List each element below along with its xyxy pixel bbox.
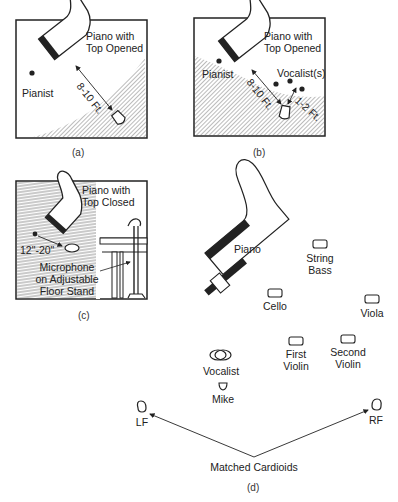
mike-label: Mike (203, 393, 243, 405)
first-violin-label: First (276, 348, 316, 360)
first-violin-chair (289, 337, 303, 345)
distance-label: 12"-20" (20, 244, 54, 256)
caption-d: (d) (247, 482, 259, 493)
microphone-label: on Adjustable (28, 273, 106, 285)
vocalist-dot (299, 86, 304, 91)
caption-c: (c) (78, 310, 90, 321)
piano-icon (174, 156, 295, 275)
string-bass-label: String (300, 252, 340, 264)
diagram-canvas (0, 0, 398, 502)
second-violin-chair (341, 335, 355, 343)
caption-b: (b) (253, 147, 265, 158)
pianist-dot (216, 58, 221, 63)
string-bass-label: Bass (300, 264, 340, 276)
string-bass-chair (313, 240, 327, 248)
pianist-dot (29, 70, 34, 75)
second-violin-label: Violin (326, 358, 370, 370)
pianist-label: Pianist (202, 68, 234, 80)
vocalist-dot (273, 81, 278, 86)
cello-label: Cello (255, 300, 295, 312)
cello-chair (268, 289, 282, 297)
right-mic-label: RF (364, 414, 388, 426)
left-mic-label: LF (130, 416, 154, 428)
viola-label: Viola (352, 307, 392, 319)
vocalist-label: Vocalist(s) (277, 67, 325, 79)
viola-chair (365, 295, 379, 303)
piano-label: Top Opened (86, 42, 143, 54)
piano-label: Piano with (82, 184, 130, 196)
piano-label: Top Opened (264, 42, 321, 54)
right-cardioid-icon (372, 399, 381, 410)
mike-icon (219, 383, 227, 390)
second-violin-label: Second (326, 346, 370, 358)
microphone-icon (65, 244, 79, 252)
pianist-label: Pianist (22, 87, 54, 99)
piano-label: Piano with (264, 30, 312, 42)
vocalist-label: Vocalist (196, 365, 246, 377)
first-violin-label: Violin (276, 360, 316, 372)
caption-a: (a) (72, 147, 84, 158)
cardioids-label: Matched Cardioids (204, 461, 304, 473)
piano-label: Piano with (86, 30, 134, 42)
piano-label: Top Closed (82, 196, 135, 208)
microphone-label: Floor Stand (32, 285, 102, 297)
vocalist-dot (287, 78, 292, 83)
left-cardioid-icon (137, 401, 146, 412)
panel-a (16, 0, 147, 138)
microphone-label: Microphone (32, 261, 102, 273)
piano-label: Piano (234, 243, 261, 255)
